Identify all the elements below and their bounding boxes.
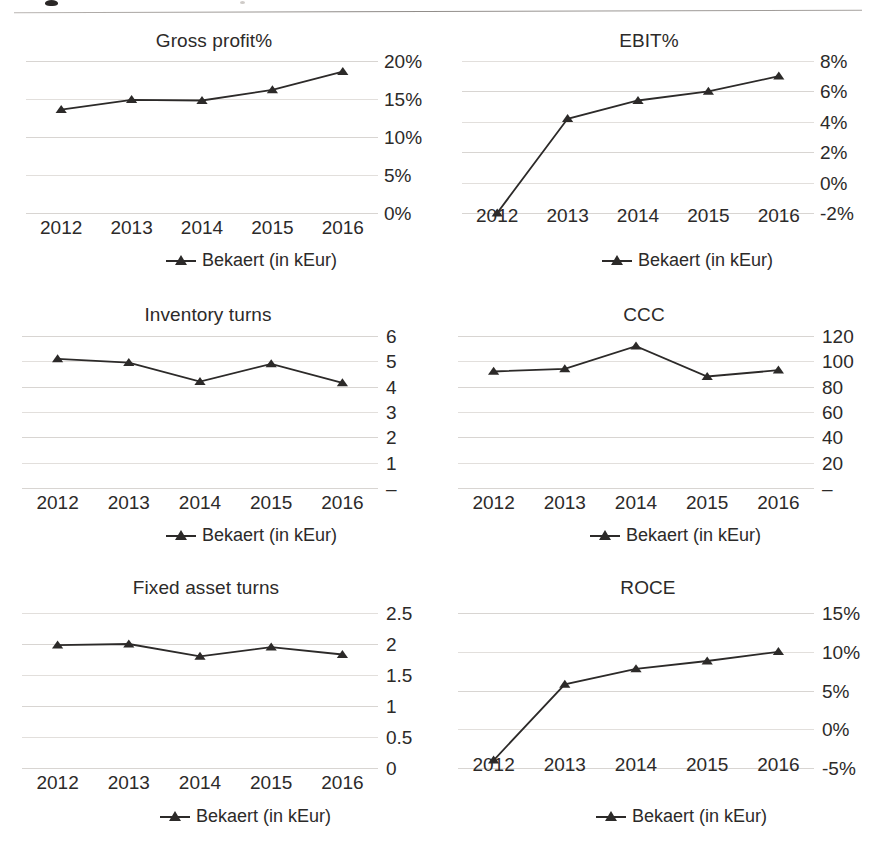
y-axis-tick-label: 0% xyxy=(822,720,849,739)
chart-panel-fixed-asset-turns: Fixed asset turns 00.511.522.5 201220132… xyxy=(0,563,436,839)
y-axis-tick-label: 15% xyxy=(822,604,860,623)
x-axis-tick-label: 2014 xyxy=(617,206,659,225)
series-line xyxy=(494,346,779,376)
x-axis-tick-label: 2016 xyxy=(321,493,363,512)
x-axis-labels: 20122013201420152016 xyxy=(462,206,814,230)
y-axis-tick-label: 100 xyxy=(822,352,854,371)
series-marker xyxy=(266,643,277,651)
plot-area xyxy=(22,613,378,768)
y-axis-tick-label: 20 xyxy=(822,453,843,472)
chart-title: EBIT% xyxy=(431,30,867,52)
series-marker xyxy=(773,647,784,655)
x-axis-tick-label: 2012 xyxy=(40,218,82,237)
y-axis-tick-label: 4 xyxy=(386,377,397,396)
y-axis-tick-label: 0 xyxy=(386,759,397,778)
legend-marker-icon xyxy=(160,810,190,822)
x-axis-tick-label: 2016 xyxy=(322,218,364,237)
x-axis-tick-label: 2014 xyxy=(179,773,221,792)
chart-legend: Bekaert (in kEur) xyxy=(590,524,761,546)
plot-area xyxy=(26,61,378,213)
y-axis-labels: –20406080100120 xyxy=(822,336,872,488)
legend-marker-icon xyxy=(602,254,632,266)
legend-marker-icon xyxy=(166,254,196,266)
x-axis-labels: 20122013201420152016 xyxy=(458,755,814,779)
chart-title: Inventory turns xyxy=(0,304,426,326)
y-axis-tick-label: 6% xyxy=(820,82,847,101)
series-marker xyxy=(773,366,784,374)
x-axis-tick-label: 2016 xyxy=(758,206,800,225)
x-axis-tick-label: 2014 xyxy=(615,493,657,512)
legend-marker-icon xyxy=(596,810,626,822)
gridline xyxy=(22,768,378,769)
plot-area xyxy=(462,61,814,213)
x-axis-tick-label: 2012 xyxy=(472,493,514,512)
chart-legend: Bekaert (in kEur) xyxy=(166,249,337,271)
y-axis-tick-label: 10% xyxy=(384,128,422,147)
y-axis-tick-label: 60 xyxy=(822,403,843,422)
y-axis-tick-label: 2% xyxy=(820,143,847,162)
y-axis-tick-label: 5% xyxy=(822,681,849,700)
y-axis-tick-label: 2 xyxy=(386,428,397,447)
data-series xyxy=(26,61,378,213)
x-axis-tick-label: 2016 xyxy=(757,493,799,512)
chart-title: CCC xyxy=(426,304,862,326)
x-axis-tick-label: 2016 xyxy=(321,773,363,792)
x-axis-tick-label: 2012 xyxy=(476,206,518,225)
chart-panel-ccc: CCC –20406080100120 20122013201420152016… xyxy=(436,290,872,566)
x-axis-tick-label: 2014 xyxy=(181,218,223,237)
x-axis-tick-label: 2013 xyxy=(544,755,586,774)
x-axis-tick-label: 2015 xyxy=(250,773,292,792)
x-axis-tick-label: 2013 xyxy=(108,493,150,512)
y-axis-labels: -2%0%2%4%6%8% xyxy=(820,61,872,213)
legend-label: Bekaert (in kEur) xyxy=(202,250,337,271)
chart-panel-inventory-turns: Inventory turns –123456 2012201320142015… xyxy=(0,290,436,566)
legend-label: Bekaert (in kEur) xyxy=(196,806,331,827)
data-series xyxy=(458,336,814,488)
x-axis-tick-label: 2013 xyxy=(108,773,150,792)
legend-marker-icon xyxy=(590,529,620,541)
y-axis-tick-label: 0% xyxy=(820,173,847,192)
x-axis-tick-label: 2013 xyxy=(544,493,586,512)
x-axis-tick-label: 2015 xyxy=(686,493,728,512)
y-axis-tick-label: 120 xyxy=(822,327,854,346)
data-series xyxy=(22,336,378,488)
chart-panel-ebit: EBIT% -2%0%2%4%6%8% 20122013201420152016… xyxy=(436,16,872,292)
y-axis-tick-label: 3 xyxy=(386,403,397,422)
y-axis-tick-label: 0% xyxy=(384,204,411,223)
gridline xyxy=(458,488,814,489)
x-axis-labels: 20122013201420152016 xyxy=(458,493,814,517)
y-axis-tick-label: 2.5 xyxy=(386,604,412,623)
series-marker xyxy=(337,67,348,75)
plot-area xyxy=(458,336,814,488)
x-axis-tick-label: 2014 xyxy=(179,493,221,512)
y-axis-tick-label: 80 xyxy=(822,377,843,396)
scan-artifact-speck xyxy=(240,1,245,4)
x-axis-labels: 20122013201420152016 xyxy=(22,773,378,797)
x-axis-tick-label: 2015 xyxy=(687,206,729,225)
y-axis-tick-label: 6 xyxy=(386,327,397,346)
legend-label: Bekaert (in kEur) xyxy=(626,525,761,546)
legend-label: Bekaert (in kEur) xyxy=(632,806,767,827)
x-axis-tick-label: 2013 xyxy=(110,218,152,237)
chart-title: Fixed asset turns xyxy=(0,577,424,599)
x-axis-tick-label: 2016 xyxy=(757,755,799,774)
series-marker xyxy=(630,342,641,350)
data-series xyxy=(462,61,814,213)
y-axis-tick-label: 20% xyxy=(384,52,422,71)
y-axis-tick-label: 1.5 xyxy=(386,666,412,685)
y-axis-tick-label: 4% xyxy=(820,112,847,131)
y-axis-tick-label: 2 xyxy=(386,635,397,654)
page-divider-rule xyxy=(14,10,862,14)
y-axis-tick-label: 40 xyxy=(822,428,843,447)
x-axis-tick-label: 2015 xyxy=(250,493,292,512)
y-axis-tick-label: – xyxy=(822,479,833,498)
series-marker xyxy=(773,72,784,80)
y-axis-tick-label: 10% xyxy=(822,642,860,661)
chart-title: ROCE xyxy=(430,577,866,599)
y-axis-tick-label: 1 xyxy=(386,453,397,472)
y-axis-tick-label: 0.5 xyxy=(386,728,412,747)
y-axis-tick-label: 1 xyxy=(386,697,397,716)
series-marker xyxy=(266,359,277,367)
legend-marker-icon xyxy=(166,529,196,541)
x-axis-tick-label: 2015 xyxy=(686,755,728,774)
